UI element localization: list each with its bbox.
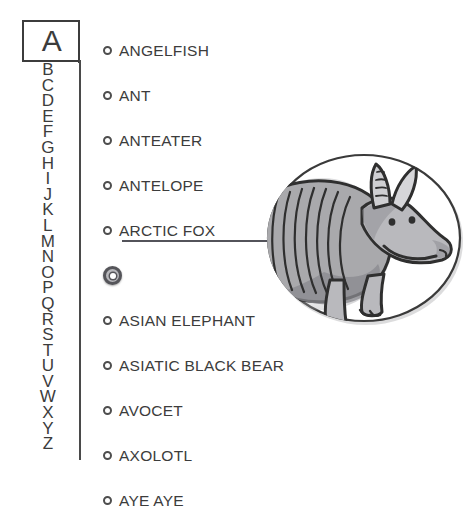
current-letter-box[interactable]: A: [22, 20, 80, 62]
entry-row[interactable]: AYE AYE: [103, 478, 443, 510]
bullet-icon[interactable]: [103, 181, 112, 190]
alphabet-letter-list: BCDEFGHIJKLMNOPQRSTUVWXYZ: [22, 62, 74, 452]
entry-label: ANTEATER: [119, 133, 203, 149]
current-letter-label: A: [24, 26, 80, 56]
entry-label: AVOCET: [119, 403, 183, 419]
entry-label: AXOLOTL: [119, 448, 192, 464]
armadillo-illustration: [264, 152, 464, 328]
entry-label: ASIAN ELEPHANT: [119, 313, 255, 329]
entry-label: ANTELOPE: [119, 178, 204, 194]
bullet-icon[interactable]: [103, 406, 112, 415]
bullet-icon[interactable]: [103, 46, 112, 55]
rail-divider-line: [79, 60, 81, 460]
entry-label: AYE AYE: [119, 493, 184, 509]
entry-row[interactable]: AXOLOTL: [103, 433, 443, 478]
leader-line: [122, 240, 282, 242]
bullet-icon[interactable]: [103, 136, 112, 145]
entry-label: ANGELFISH: [119, 43, 209, 59]
selected-marker-icon[interactable]: [103, 266, 122, 285]
entry-row[interactable]: AVOCET: [103, 388, 443, 433]
entry-row[interactable]: ANT: [103, 73, 443, 118]
alphabet-index-rail: A BCDEFGHIJKLMNOPQRSTUVWXYZ: [0, 0, 95, 493]
bullet-icon[interactable]: [103, 496, 112, 505]
bullet-icon[interactable]: [103, 451, 112, 460]
entry-label: ASIATIC BLACK BEAR: [119, 358, 284, 374]
entry-label: ANT: [119, 88, 151, 104]
entry-label: ARCTIC FOX: [119, 223, 215, 239]
bullet-icon[interactable]: [103, 91, 112, 100]
bullet-icon[interactable]: [103, 316, 112, 325]
bullet-icon[interactable]: [103, 361, 112, 370]
bullet-icon[interactable]: [103, 226, 112, 235]
entry-row[interactable]: ASIATIC BLACK BEAR: [103, 343, 443, 388]
entry-row[interactable]: ANGELFISH: [103, 28, 443, 73]
alphabet-letter-z[interactable]: Z: [43, 436, 54, 452]
